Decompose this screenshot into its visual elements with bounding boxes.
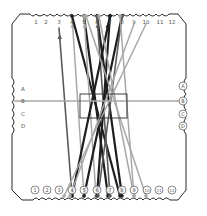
bottom-slot-label: 4 [70, 187, 73, 193]
right-slot-marker: B [179, 97, 187, 105]
top-slot-label: 10 [143, 19, 150, 25]
bottom-slot-label: 1 [33, 187, 36, 193]
thread-anchor [68, 194, 72, 198]
bottom-slot-marker: 5 [80, 186, 88, 194]
bottom-slot-label: 8 [120, 187, 123, 193]
thread-anchor [120, 194, 124, 198]
top-slot-label: 6 [95, 19, 99, 25]
braiding-card-diagram: 123456789101112 123456789101112 ABCD ABC… [0, 0, 207, 216]
thread-anchor [97, 14, 101, 18]
left-slot-label: D [21, 123, 25, 129]
diagram-canvas: 123456789101112 123456789101112 ABCD ABC… [0, 0, 207, 216]
bottom-slot-marker: 6 [93, 186, 101, 194]
bottom-slot-label: 2 [45, 187, 48, 193]
thread-anchor [108, 14, 112, 18]
bottom-slot-label: 5 [82, 187, 85, 193]
thread-anchor [144, 194, 148, 198]
top-slot-label: 4 [70, 19, 74, 25]
bottom-slot-marker: 7 [106, 186, 114, 194]
right-slot-label: A [181, 83, 185, 89]
thread-anchor [96, 194, 100, 198]
bottom-slot-marker: 4 [68, 186, 76, 194]
bottom-slot-marker: 10 [143, 186, 151, 194]
thread-anchor [82, 194, 86, 198]
right-slot-marker: D [179, 122, 187, 130]
top-slot-label: 11 [157, 19, 164, 25]
right-slot-label: B [181, 98, 185, 104]
left-slot-label: C [21, 111, 25, 117]
top-slot-label: 12 [169, 19, 176, 25]
bottom-slot-marker: 2 [43, 186, 51, 194]
right-slot-marker: A [179, 82, 187, 90]
bottom-slot-marker: 3 [55, 186, 63, 194]
bottom-slot-label: 12 [169, 188, 175, 193]
bottom-slot-label: 3 [57, 187, 60, 193]
thread-anchor [118, 14, 122, 18]
top-slot-label: 5 [82, 19, 86, 25]
thread-anchor [132, 194, 136, 198]
bottom-slot-marker: 8 [118, 186, 126, 194]
top-slot-label: 2 [44, 19, 48, 25]
top-slot-label: 3 [57, 19, 61, 25]
bottom-slot-marker: 12 [168, 186, 176, 194]
top-slot-label: 1 [34, 19, 38, 25]
top-slot-label: 7 [108, 19, 112, 25]
thread-anchor [62, 194, 66, 198]
right-slot-label: C [181, 111, 185, 117]
bottom-slot-label: 7 [108, 187, 111, 193]
right-slot-label: D [181, 123, 185, 129]
thread-anchor [70, 14, 74, 18]
left-slot-label: A [21, 86, 25, 92]
bottom-slot-label: 11 [156, 188, 162, 193]
bottom-slot-marker: 11 [155, 186, 163, 194]
bottom-slot-label: 10 [144, 188, 150, 193]
left-slot-label: B [21, 98, 25, 104]
bottom-slot-label: 9 [132, 187, 135, 193]
bottom-slot-marker: 9 [130, 186, 138, 194]
bottom-slot-label: 6 [95, 187, 98, 193]
right-slot-marker: C [179, 110, 187, 118]
thread-anchor [84, 14, 88, 18]
bottom-slot-marker: 1 [31, 186, 39, 194]
top-slot-label: 9 [132, 19, 136, 25]
top-slot-label: 8 [120, 19, 124, 25]
thread-anchor [108, 194, 112, 198]
